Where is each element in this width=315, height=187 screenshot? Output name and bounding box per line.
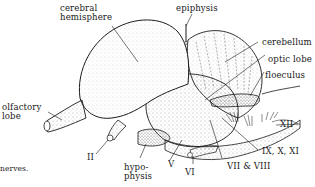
epiphysis bbox=[185, 24, 188, 45]
optic-nerve bbox=[107, 120, 126, 141]
label-nerve-ix-x-xi: IX, X, XI bbox=[262, 147, 299, 156]
label-epiphysis: epiphysis bbox=[176, 4, 218, 13]
label-nerve-ii: II bbox=[87, 153, 94, 162]
label-cerebral-hemisphere: cerebral hemisphere bbox=[60, 4, 112, 22]
brain-illustration bbox=[0, 0, 315, 187]
olfactory-lobe bbox=[44, 100, 86, 132]
label-nerve-vi: VI bbox=[185, 168, 195, 177]
caption-fragment: nerves. bbox=[0, 164, 28, 173]
label-nerve-v: V bbox=[168, 160, 174, 169]
label-hypophysis: hypo- physis bbox=[124, 163, 152, 181]
label-optic-lobe: optic lobe bbox=[268, 55, 312, 64]
label-cerebellum: cerebellum bbox=[262, 38, 312, 47]
label-floeculus: floeculus bbox=[265, 71, 305, 80]
label-nerve-vii-viii: VII & VIII bbox=[227, 162, 271, 171]
brain-diagram: cerebral hemisphere epiphysis cerebellum… bbox=[0, 0, 315, 187]
label-olfactory-lobe: olfactory lobe bbox=[2, 103, 42, 121]
label-nerve-xii: XII bbox=[280, 120, 293, 129]
